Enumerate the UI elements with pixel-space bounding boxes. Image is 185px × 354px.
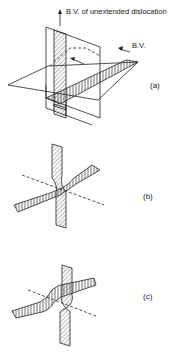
panel-a bbox=[8, 9, 138, 125]
panel-b bbox=[14, 144, 104, 228]
panel-b-label: (b) bbox=[143, 192, 153, 201]
bv-unextended-label: B.V. of unextended dislocation bbox=[66, 7, 167, 16]
dislocation-diagram bbox=[0, 0, 185, 354]
panel-a-label: (a) bbox=[150, 81, 160, 90]
bv-label: B.V. bbox=[132, 41, 145, 50]
panel-c bbox=[12, 265, 96, 346]
panel-c-label: (c) bbox=[143, 292, 152, 301]
